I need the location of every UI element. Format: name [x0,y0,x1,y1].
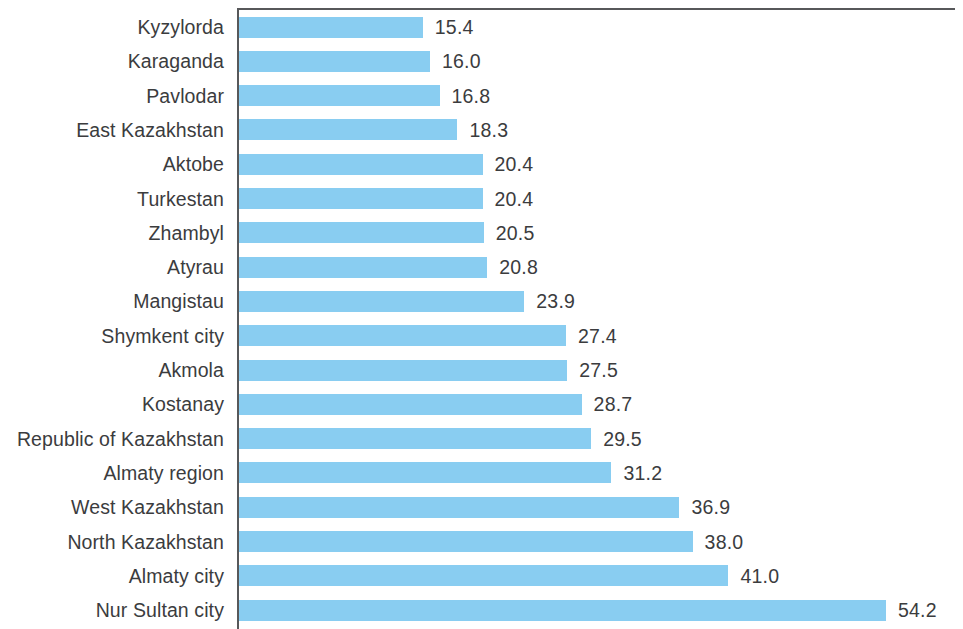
value-label: 15.4 [435,10,474,44]
category-label: West Kazakhstan [0,490,224,524]
bar-track [239,456,886,490]
bar-track [239,147,886,181]
value-label: 31.2 [623,456,662,490]
value-label: 27.4 [578,319,617,353]
category-label: North Kazakhstan [0,525,224,559]
category-label: Aktobe [0,147,224,181]
bar-row: Shymkent city27.4 [0,319,963,353]
category-label: Almaty city [0,559,224,593]
value-label: 28.7 [594,387,633,421]
value-label: 27.5 [579,353,618,387]
bar-track [239,422,886,456]
bar [239,17,423,38]
bar [239,257,487,278]
category-label: Nur Sultan city [0,593,224,627]
bar-track [239,490,886,524]
value-label: 29.5 [603,422,642,456]
category-label: Republic of Kazakhstan [0,422,224,456]
bar [239,154,483,175]
bar-track [239,319,886,353]
value-label: 36.9 [691,490,730,524]
category-label: Karaganda [0,44,224,78]
bar-row: Kostanay28.7 [0,387,963,421]
bar-track [239,44,886,78]
bar-track [239,387,886,421]
bar-row: Kyzylorda15.4 [0,10,963,44]
bar-row: North Kazakhstan38.0 [0,525,963,559]
category-label: Atyrau [0,250,224,284]
value-label: 23.9 [536,284,575,318]
value-label: 20.8 [499,250,538,284]
bar-row: Karaganda16.0 [0,44,963,78]
bar [239,85,440,106]
category-label: East Kazakhstan [0,113,224,147]
category-label: Shymkent city [0,319,224,353]
bar [239,531,693,552]
bar [239,497,679,518]
bar-rows-container: Kyzylorda15.4Karaganda16.0Pavlodar16.8Ea… [0,0,963,629]
bar-row: Almaty region31.2 [0,456,963,490]
value-label: 16.0 [442,44,481,78]
bar [239,394,582,415]
bar-row: Zhambyl20.5 [0,216,963,250]
bar [239,428,591,449]
bar-track [239,182,886,216]
bar [239,119,457,140]
bar-track [239,10,886,44]
value-label: 18.3 [469,113,508,147]
category-label: Turkestan [0,182,224,216]
bar [239,188,483,209]
bar [239,462,611,483]
value-label: 41.0 [740,559,779,593]
bar-row: Republic of Kazakhstan29.5 [0,422,963,456]
category-label: Almaty region [0,456,224,490]
category-label: Zhambyl [0,216,224,250]
bar-track [239,559,886,593]
bar [239,565,728,586]
bar [239,600,886,621]
bar-track [239,525,886,559]
bar-track [239,353,886,387]
value-label: 20.5 [496,216,535,250]
category-label: Pavlodar [0,79,224,113]
value-label: 20.4 [495,147,534,181]
bar-track [239,113,886,147]
bar-row: East Kazakhstan18.3 [0,113,963,147]
bar-track [239,216,886,250]
value-label: 20.4 [495,182,534,216]
bar [239,291,524,312]
bar-row: Akmola27.5 [0,353,963,387]
value-label: 16.8 [452,79,491,113]
bar-row: Nur Sultan city54.2 [0,593,963,627]
bar-row: West Kazakhstan36.9 [0,490,963,524]
category-label: Mangistau [0,284,224,318]
bar-row: Pavlodar16.8 [0,79,963,113]
bar-row: Aktobe20.4 [0,147,963,181]
bar-track [239,593,886,627]
value-label: 54.2 [898,593,937,627]
bar-row: Turkestan20.4 [0,182,963,216]
category-label: Akmola [0,353,224,387]
value-label: 38.0 [705,525,744,559]
bar [239,360,567,381]
category-label: Kostanay [0,387,224,421]
bar-row: Mangistau23.9 [0,284,963,318]
horizontal-bar-chart: Kyzylorda15.4Karaganda16.0Pavlodar16.8Ea… [0,0,963,629]
bar-track [239,250,886,284]
bar-track [239,79,886,113]
bar [239,51,430,72]
category-label: Kyzylorda [0,10,224,44]
bar [239,222,484,243]
bar-row: Almaty city41.0 [0,559,963,593]
bar-row: Atyrau20.8 [0,250,963,284]
bar [239,325,566,346]
